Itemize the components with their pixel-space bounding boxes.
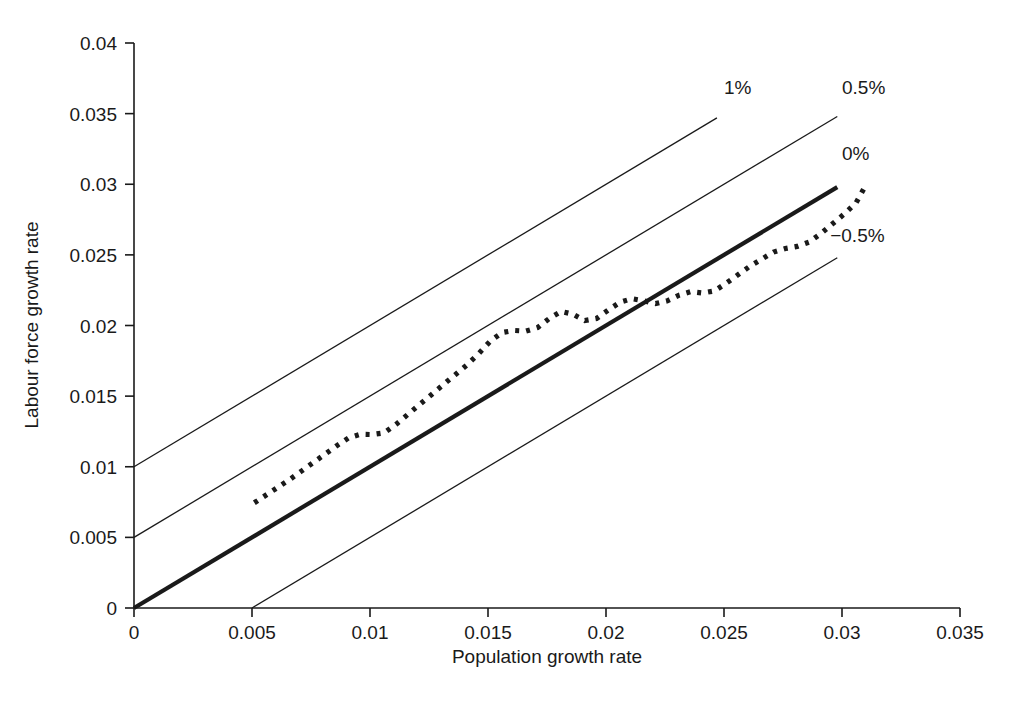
x-tick-label-5: 0.025 [700, 622, 748, 643]
scatter-line-chart: 00.0050.010.0150.020.0250.030.035 00.005… [0, 0, 1015, 708]
x-tick-label-2: 0.01 [352, 622, 389, 643]
y-axis-title: Labour force growth rate [21, 221, 42, 428]
reference-line-label-0: 1% [724, 77, 752, 98]
y-tick-label-6: 0.03 [80, 174, 117, 195]
y-tick-label-4: 0.02 [80, 316, 117, 337]
reference-line-label-2: 0% [842, 143, 870, 164]
reference-line-label-3: −0.5% [830, 225, 885, 246]
x-tick-label-7: 0.035 [936, 622, 984, 643]
x-axis-title: Population growth rate [452, 646, 642, 667]
x-tick-label-0: 0 [129, 622, 140, 643]
x-tick-label-1: 0.005 [228, 622, 276, 643]
x-tick-label-4: 0.02 [588, 622, 625, 643]
x-tick-label-3: 0.015 [464, 622, 512, 643]
y-tick-label-5: 0.025 [69, 245, 117, 266]
y-tick-label-0: 0 [106, 598, 117, 619]
y-tick-label-7: 0.035 [69, 104, 117, 125]
chart-figure: 00.0050.010.0150.020.0250.030.035 00.005… [0, 0, 1015, 708]
y-tick-label-1: 0.005 [69, 527, 117, 548]
x-tick-label-6: 0.03 [824, 622, 861, 643]
reference-line-label-1: 0.5% [842, 77, 885, 98]
chart-background [0, 0, 1015, 708]
y-tick-label-3: 0.015 [69, 386, 117, 407]
y-tick-label-2: 0.01 [80, 457, 117, 478]
y-tick-label-8: 0.04 [80, 33, 117, 54]
